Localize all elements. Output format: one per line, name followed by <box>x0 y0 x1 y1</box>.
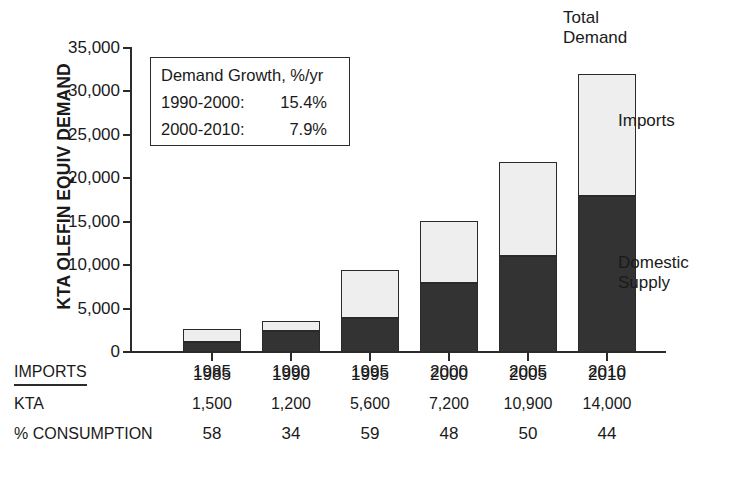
table-cell: 14,000 <box>565 394 649 414</box>
growth-row-1-range: 1990-2000: <box>161 89 265 116</box>
bar-segment-imports-2005 <box>499 162 557 257</box>
growth-row-2: 2000-2010:7.9% <box>161 116 341 143</box>
table-cell: 10,900 <box>486 394 570 414</box>
bar-2005 <box>499 162 557 352</box>
table-cell: 58 <box>170 424 254 444</box>
table-cell: 34 <box>249 424 333 444</box>
table-cell: 44 <box>565 424 649 444</box>
bar-2000 <box>420 221 478 352</box>
bar-1985 <box>183 329 241 352</box>
x-tick-mark <box>369 353 371 361</box>
x-tick-mark <box>527 353 529 361</box>
table-row: IMPORTS198519901995200020052010 <box>14 362 714 388</box>
bar-segment-imports-1985 <box>183 329 241 342</box>
table-row: KTA1,5001,2005,6007,20010,90014,000 <box>14 394 714 420</box>
table-year-2000: 2000 <box>407 362 491 382</box>
y-tick-mark <box>123 47 130 49</box>
callout-total-demand-line1: Total <box>563 8 627 28</box>
growth-row-1: 1990-2000:15.4% <box>161 89 341 116</box>
table-row-label: KTA <box>14 394 44 414</box>
bar-segment-domestic-1985 <box>183 342 241 352</box>
y-tick-label-wrap: 10,000 <box>40 256 120 273</box>
y-tick-mark <box>123 221 130 223</box>
y-tick-label-wrap: 30,000 <box>40 82 120 99</box>
bar-segment-domestic-2005 <box>499 256 557 352</box>
x-tick-mark <box>606 353 608 361</box>
callout-total-demand: Total Demand <box>563 8 627 48</box>
y-tick-label: 5,000 <box>48 300 120 317</box>
callout-total-demand-line2: Demand <box>563 28 627 48</box>
table-header-label: IMPORTS <box>14 362 87 386</box>
bar-1995 <box>341 270 399 353</box>
table-cell: 48 <box>407 424 491 444</box>
x-tick-mark <box>290 353 292 361</box>
bar-segment-domestic-2000 <box>420 283 478 352</box>
y-tick-mark <box>123 90 130 92</box>
y-tick-label: 25,000 <box>48 126 120 143</box>
demand-growth-box: Demand Growth, %/yr 1990-2000:15.4% 2000… <box>150 57 350 146</box>
table-year-2010: 2010 <box>565 362 649 382</box>
y-tick-mark <box>123 177 130 179</box>
table-year-1995: 1995 <box>328 362 412 382</box>
y-tick-label-wrap: 0 <box>40 343 120 360</box>
bar-segment-imports-2010 <box>578 74 636 196</box>
bar-segment-imports-1995 <box>341 270 399 319</box>
bar-1990 <box>262 321 320 352</box>
y-tick-mark <box>123 308 130 310</box>
y-tick-label: 0 <box>48 343 120 360</box>
table-year-1990: 1990 <box>249 362 333 382</box>
y-tick-label: 10,000 <box>48 256 120 273</box>
x-tick-mark <box>448 353 450 361</box>
table-row-label: % CONSUMPTION <box>14 424 153 444</box>
y-tick-label-wrap: 20,000 <box>40 169 120 186</box>
table-cell: 59 <box>328 424 412 444</box>
bar-segment-domestic-1990 <box>262 331 320 352</box>
bar-segment-imports-2000 <box>420 221 478 284</box>
table-year-1985: 1985 <box>170 362 254 382</box>
table-cell: 5,600 <box>328 394 412 414</box>
y-tick-label: 15,000 <box>48 213 120 230</box>
callout-domestic-supply-line2: Supply <box>618 273 689 293</box>
growth-row-2-range: 2000-2010: <box>161 116 265 143</box>
y-tick-label: 35,000 <box>48 39 120 56</box>
y-tick-label-wrap: 15,000 <box>40 213 120 230</box>
callout-domestic-supply-line1: Domestic <box>618 253 689 273</box>
y-tick-mark <box>123 264 130 266</box>
y-tick-label-wrap: 25,000 <box>40 126 120 143</box>
table-year-2005: 2005 <box>486 362 570 382</box>
y-tick-label-wrap: 5,000 <box>40 300 120 317</box>
table-row: % CONSUMPTION583459485044 <box>14 424 714 450</box>
y-tick-mark <box>123 351 130 353</box>
growth-box-title: Demand Growth, %/yr <box>161 62 341 89</box>
table-cell: 50 <box>486 424 570 444</box>
bar-segment-domestic-1995 <box>341 318 399 352</box>
table-cell: 1,500 <box>170 394 254 414</box>
table-cell: 7,200 <box>407 394 491 414</box>
table-cell: 1,200 <box>249 394 333 414</box>
y-tick-label-wrap: 35,000 <box>40 39 120 56</box>
callout-imports: Imports <box>618 111 675 131</box>
x-tick-mark <box>211 353 213 361</box>
callout-domestic-supply: Domestic Supply <box>618 253 689 293</box>
y-tick-label: 20,000 <box>48 169 120 186</box>
y-tick-label: 30,000 <box>48 82 120 99</box>
bar-segment-imports-1990 <box>262 321 320 331</box>
y-tick-mark <box>123 134 130 136</box>
chart-container: KTA OLEFIN EQUIV DEMAND 35,00030,00025,0… <box>0 0 729 479</box>
growth-row-1-value: 15.4% <box>265 89 327 116</box>
growth-row-2-value: 7.9% <box>265 116 327 143</box>
